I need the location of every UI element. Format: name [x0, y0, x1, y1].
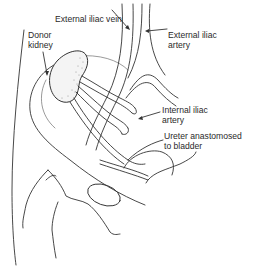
- donor-kidney-shape: [50, 51, 88, 102]
- bladder: [124, 151, 174, 175]
- pelvic-bone: [23, 170, 48, 228]
- peritoneum-curve: [30, 62, 145, 205]
- label-donor-kidney: Donor kidney: [28, 30, 53, 50]
- label-ureter-anastomosed: Ureter anastomosed to bladder: [164, 131, 242, 151]
- label-external-iliac-artery: External iliac artery: [168, 30, 217, 50]
- label-internal-iliac-artery: Internal iliac artery: [162, 105, 208, 125]
- external-iliac-artery: [149, 4, 165, 75]
- body-outline: [12, 30, 24, 265]
- label-external-iliac-vein: External iliac vein: [55, 14, 122, 24]
- transplant-diagram: External iliac vein External iliac arter…: [0, 0, 255, 275]
- renal-artery: [82, 76, 135, 108]
